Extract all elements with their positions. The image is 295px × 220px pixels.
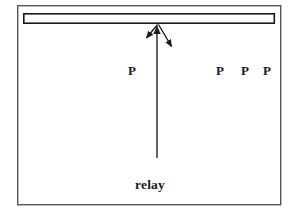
- relay-diagram-figure: P P P P relay: [0, 0, 295, 220]
- horizontal-bar: [24, 14, 274, 23]
- relay-caption-label: relay: [135, 178, 165, 192]
- p-label-center: P: [128, 64, 136, 77]
- p-label-right-1: P: [216, 64, 224, 77]
- p-label-right-2: P: [241, 64, 249, 77]
- p-label-right-3: P: [263, 64, 271, 77]
